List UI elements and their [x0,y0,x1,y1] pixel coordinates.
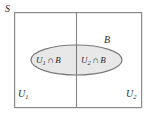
venn-diagram-figure: S B U1 U2 U1∩B U2∩B [0,0,152,118]
label-sample-space: S [5,3,10,14]
label-region-u2-intersect-b: U2∩B [81,55,106,66]
venn-diagram-canvas: S B U1 U2 U1∩B U2∩B [0,0,152,118]
label-event-b: B [104,34,110,45]
label-region-u1-intersect-b: U1∩B [36,55,61,66]
